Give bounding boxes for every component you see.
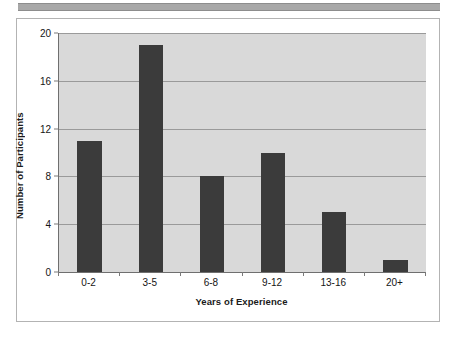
- bar: [383, 260, 407, 272]
- x-axis-tick-label: 20+: [386, 277, 403, 288]
- y-axis-tick-label: 4: [45, 219, 51, 230]
- x-axis-title: Years of Experience: [58, 296, 425, 307]
- x-axis-tick-mark: [180, 272, 181, 276]
- x-axis-tick-label: 6-8: [204, 277, 218, 288]
- gridline: [59, 224, 426, 225]
- y-axis-tick-label: 20: [40, 28, 51, 39]
- x-axis-tick-mark: [303, 272, 304, 276]
- bar: [322, 212, 346, 272]
- bar: [200, 176, 224, 272]
- x-axis-tick-label: 9-12: [262, 277, 282, 288]
- gridline: [59, 33, 426, 34]
- x-axis-tick-mark: [364, 272, 365, 276]
- y-axis-tick-label: 0: [45, 267, 51, 278]
- bar: [139, 45, 163, 272]
- bar: [77, 141, 101, 272]
- x-axis-tick-mark: [58, 272, 59, 276]
- y-axis-tick-label: 16: [40, 75, 51, 86]
- y-axis-tick-label: 12: [40, 123, 51, 134]
- x-axis-tick-labels: 0-23-56-89-1213-1620+: [58, 277, 425, 291]
- x-axis-tick-label: 3-5: [143, 277, 157, 288]
- bar: [261, 153, 285, 273]
- gridline: [59, 81, 426, 82]
- y-axis-tick-label: 8: [45, 171, 51, 182]
- x-axis-tick-mark: [119, 272, 120, 276]
- plot-area: [58, 33, 426, 273]
- y-axis-tick-labels: 048121620: [28, 27, 54, 279]
- x-axis-tick-label: 0-2: [81, 277, 95, 288]
- gridline: [59, 129, 426, 130]
- x-axis-tick-label: 13-16: [320, 277, 346, 288]
- x-axis-tick-mark: [242, 272, 243, 276]
- gridline: [59, 176, 426, 177]
- x-axis-tick-mark: [425, 272, 426, 276]
- page-top-rule: [18, 3, 440, 11]
